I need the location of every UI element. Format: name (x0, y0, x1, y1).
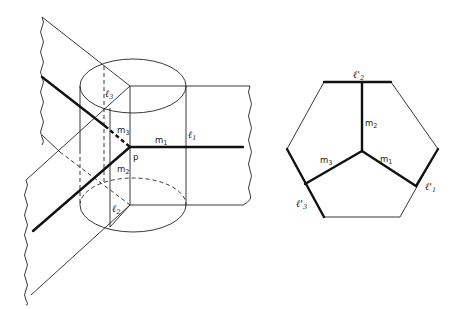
l3-label: ℓ3 (105, 88, 113, 101)
m2-label: m2 (117, 164, 129, 176)
m3-label: m3 (117, 125, 129, 137)
l1-prime-label: ℓ'1 (425, 181, 436, 194)
hex-m3-label: m3 (320, 155, 332, 167)
l1-label: ℓ1 (188, 129, 196, 142)
m3-bold-line (42, 77, 105, 126)
hex-m2-label: m2 (365, 118, 377, 130)
l3-prime-label: ℓ'3 (296, 198, 307, 211)
point-p-label: p (133, 152, 138, 162)
left-figure: p ℓ1 ℓ3 ℓ2 m1 m3 m2 (25, 17, 252, 305)
m1-segment (362, 151, 416, 186)
m3-segment (305, 151, 362, 184)
upper-left-plane-top-edge (42, 17, 130, 86)
right-figure: ℓ'2 m2 m1 m3 ℓ'1 ℓ'3 (287, 69, 438, 217)
l2-label: ℓ2 (112, 203, 120, 216)
l2-prime-label: ℓ'2 (353, 69, 364, 82)
m1-label: m1 (155, 135, 167, 147)
upper-left-plane-lower-edge (42, 135, 60, 152)
cylinder-bottom-back-arc (80, 178, 186, 205)
right-plane-wavy-edge (243, 86, 252, 205)
upper-left-plane-wavy-edge (41, 17, 44, 145)
lower-left-plane-wavy-edge (25, 180, 28, 305)
diagram-canvas: p ℓ1 ℓ3 ℓ2 m1 m3 m2 ℓ'2 m2 m1 m3 ℓ'1 ℓ'3 (0, 0, 460, 309)
cylinder-bottom-front-arc (80, 205, 186, 232)
